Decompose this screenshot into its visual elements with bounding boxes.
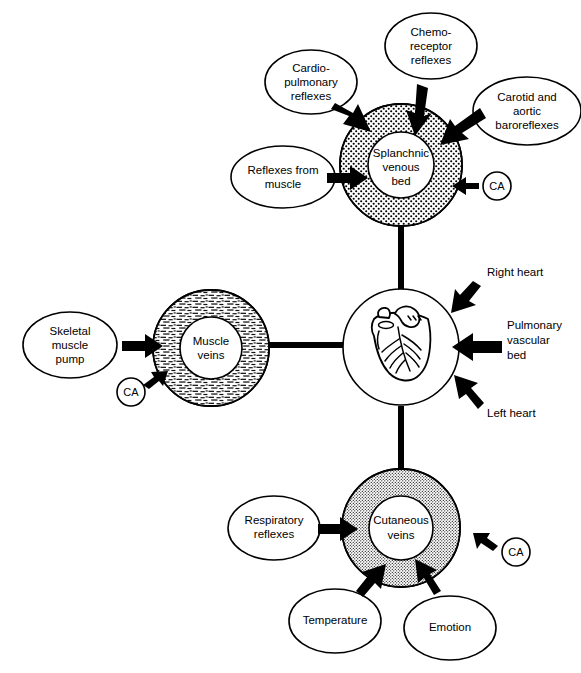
- muscle-label-line-1: Muscle: [193, 335, 229, 347]
- reflexes-from-muscle-line-1: Reflexes from: [248, 164, 319, 176]
- chemoreceptor-line-1: Chemo-: [411, 26, 452, 38]
- influence-temperature[interactable]: Temperature: [289, 589, 381, 653]
- influence-chemoreceptor-reflexes[interactable]: Chemo- receptor reflexes: [385, 13, 477, 79]
- splanchnic-label-line-1: Splanchnic: [373, 147, 430, 159]
- carotid-aortic-line-3: baroreflexes: [495, 119, 559, 131]
- callout-pulmonary-vascular-bed[interactable]: Pulmonary vascular bed: [452, 319, 562, 361]
- node-muscle-veins[interactable]: Muscle veins: [148, 285, 274, 411]
- muscle-ca-label: CA: [123, 386, 139, 398]
- cardiopulmonary-line-3: reflexes: [291, 90, 332, 102]
- cutaneous-ca-label: CA: [508, 546, 524, 558]
- cardiopulmonary-line-2: pulmonary: [284, 76, 338, 88]
- arrow-pulmonary-vascular-bed: [452, 333, 502, 361]
- respiratory-reflexes-line-2: reflexes: [254, 528, 295, 540]
- ca-marker-muscle[interactable]: CA: [117, 378, 145, 406]
- emotion-label: Emotion: [429, 621, 471, 633]
- callout-right-heart[interactable]: Right heart: [451, 266, 544, 313]
- pulmonary-line-3: bed: [507, 349, 526, 361]
- arrow-ca-to-cutaneous: [473, 533, 498, 551]
- reflexes-from-muscle-ellipse: [231, 146, 335, 208]
- cutaneous-label-line-2: veins: [388, 529, 415, 541]
- respiratory-reflexes-line-1: Respiratory: [245, 514, 304, 526]
- pulmonary-line-2: vascular: [507, 334, 550, 346]
- carotid-aortic-line-1: Carotid and: [497, 91, 556, 103]
- chemoreceptor-line-2: receptor: [410, 40, 452, 52]
- node-heart[interactable]: [343, 289, 459, 405]
- skeletal-muscle-pump-line-2: muscle: [52, 339, 88, 351]
- ca-marker-cutaneous[interactable]: CA: [502, 538, 530, 566]
- arrow-right-heart: [451, 281, 481, 313]
- muscle-inner-circle: [180, 317, 242, 379]
- skeletal-muscle-pump-line-3: pump: [56, 353, 85, 365]
- influence-respiratory-reflexes[interactable]: Respiratory reflexes: [228, 496, 320, 560]
- temperature-label: Temperature: [303, 614, 368, 626]
- muscle-label-line-2: veins: [198, 349, 225, 361]
- ca-marker-splanchnic[interactable]: CA: [483, 172, 511, 200]
- cutaneous-label-line-1: Cutaneous: [373, 514, 429, 526]
- influence-emotion[interactable]: Emotion: [404, 596, 496, 660]
- reflexes-from-muscle-line-2: muscle: [265, 178, 301, 190]
- influence-carotid-aortic-baroreflexes[interactable]: Carotid and aortic baroreflexes: [473, 77, 581, 145]
- left-heart-label: Left heart: [487, 407, 536, 419]
- callout-left-heart[interactable]: Left heart: [454, 375, 536, 419]
- influence-skeletal-muscle-pump[interactable]: Skeletal muscle pump: [23, 312, 117, 378]
- pulmonary-line-1: Pulmonary: [507, 319, 562, 331]
- splanchnic-label-line-2: venous: [382, 161, 419, 173]
- splanchnic-label-line-3: bed: [391, 175, 410, 187]
- diagram-canvas: Splanchnic venous bed Muscle veins Cutan…: [0, 0, 581, 673]
- arrow-left-heart: [454, 375, 484, 409]
- cutaneous-inner-circle: [369, 496, 433, 560]
- cardiopulmonary-line-1: Cardio-: [292, 62, 330, 74]
- influence-reflexes-from-muscle[interactable]: Reflexes from muscle: [231, 146, 335, 208]
- splanchnic-ca-label: CA: [489, 180, 505, 192]
- carotid-aortic-line-2: aortic: [513, 105, 541, 117]
- chemoreceptor-line-3: reflexes: [411, 54, 452, 66]
- skeletal-muscle-pump-line-1: Skeletal: [50, 325, 91, 337]
- physiology-diagram: Splanchnic venous bed Muscle veins Cutan…: [0, 0, 581, 673]
- right-heart-label: Right heart: [487, 266, 544, 278]
- influence-cardiopulmonary-reflexes[interactable]: Cardio- pulmonary reflexes: [265, 50, 357, 114]
